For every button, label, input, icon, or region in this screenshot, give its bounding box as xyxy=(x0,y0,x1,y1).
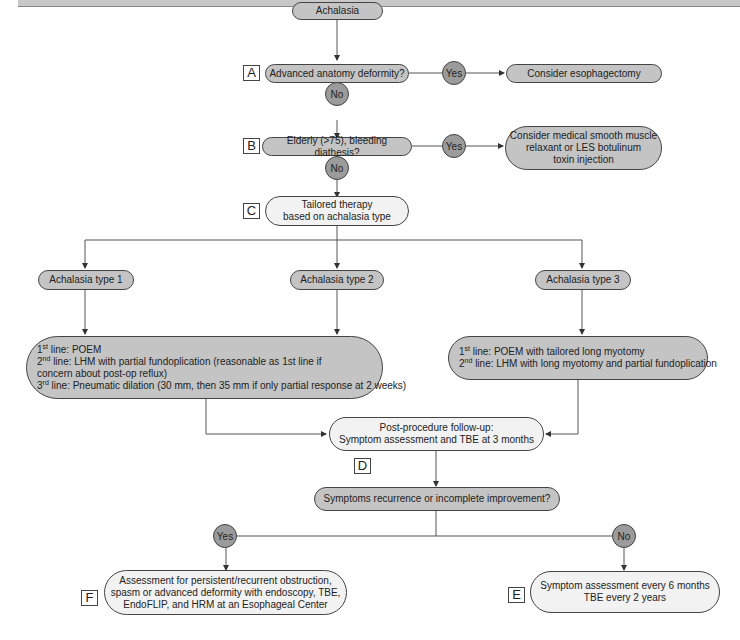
yes-circle-recurrence: Yes xyxy=(213,524,237,548)
achalasia-type-3: Achalasia type 3 xyxy=(535,270,631,290)
outcome-esophagectomy: Consider esophagectomy xyxy=(506,64,662,83)
achalasia-type-2: Achalasia type 2 xyxy=(290,270,384,290)
yes-label: Yes xyxy=(217,531,233,542)
type-1-2-therapy-node: 1st line: POEM 2nd line: LHM with partia… xyxy=(26,336,383,399)
type-3-label: Achalasia type 3 xyxy=(546,274,619,286)
therapy3-line-2: 2nd line: LHM with long myotomy and part… xyxy=(459,358,717,370)
therapy-line-2b: concern about post-op reflux) xyxy=(37,368,406,380)
no-label: No xyxy=(618,531,631,542)
yes-circle-a: Yes xyxy=(442,61,466,85)
followup-line-2: Symptom assessment and TBE at 3 months xyxy=(339,434,534,446)
step-label-c: C xyxy=(243,203,260,219)
tailored-line-2: based on achalasia type xyxy=(283,211,391,223)
decision-advanced-deformity: Advanced anatomy deformity? xyxy=(265,64,409,83)
no-label: No xyxy=(331,163,344,174)
yes-label: Yes xyxy=(446,68,462,79)
surveillance-node: Symptom assessment every 6 months TBE ev… xyxy=(530,571,720,613)
type-1-label: Achalasia type 1 xyxy=(49,274,122,286)
outcome-esophagectomy-label: Consider esophagectomy xyxy=(527,68,640,80)
assessment-line-2: spasm or advanced deformity with endosco… xyxy=(111,587,341,599)
step-label-b: B xyxy=(243,138,260,154)
no-circle-a: No xyxy=(325,82,349,106)
decision-symptom-recurrence: Symptoms recurrence or incomplete improv… xyxy=(314,487,560,511)
decision-elderly-bleeding-label: Elderly (>75), bleeding diathesis? xyxy=(263,135,411,159)
step-label-d: D xyxy=(354,458,371,474)
followup-line-1: Post-procedure follow-up: xyxy=(339,422,534,434)
assessment-line-1: Assessment for persistent/recurrent obst… xyxy=(111,575,341,587)
outcome-medical-relaxant-botulinum: Consider medical smooth muscle relaxant … xyxy=(505,126,662,170)
no-circle-b: No xyxy=(325,156,349,180)
no-circle-recurrence: No xyxy=(612,524,636,548)
surveillance-line-2: TBE every 2 years xyxy=(540,592,710,604)
type-2-label: Achalasia type 2 xyxy=(300,274,373,286)
step-label-a: A xyxy=(243,65,260,81)
decision-advanced-deformity-label: Advanced anatomy deformity? xyxy=(269,68,404,80)
therapy-line-1: 1st line: POEM xyxy=(37,344,406,356)
therapy-line-2: 2nd line: LHM with partial fundoplicatio… xyxy=(37,356,406,368)
decision-elderly-bleeding: Elderly (>75), bleeding diathesis? xyxy=(262,137,412,156)
outcome-line-3: toxin injection xyxy=(510,154,657,166)
start-node-achalasia: Achalasia xyxy=(292,2,383,20)
tailored-therapy-node: Tailored therapy based on achalasia type xyxy=(265,196,409,226)
type-3-therapy-node: 1st line: POEM with tailored long myotom… xyxy=(448,336,708,380)
achalasia-type-1: Achalasia type 1 xyxy=(38,270,134,290)
tailored-line-1: Tailored therapy xyxy=(283,199,391,211)
start-node-label: Achalasia xyxy=(316,5,359,17)
assessment-esophageal-center-node: Assessment for persistent/recurrent obst… xyxy=(104,570,347,615)
decision-recurrence-label: Symptoms recurrence or incomplete improv… xyxy=(324,493,551,505)
therapy3-line-1: 1st line: POEM with tailored long myotom… xyxy=(459,346,717,358)
assessment-line-3: EndoFLIP, and HRM at an Esophageal Cente… xyxy=(111,599,341,611)
step-label-e: E xyxy=(508,587,525,603)
no-label: No xyxy=(331,89,344,100)
outcome-line-2: relaxant or LES botulinum xyxy=(510,142,657,154)
outcome-line-1: Consider medical smooth muscle xyxy=(510,130,657,142)
therapy-line-3: 3rd line: Pneumatic dilation (30 mm, the… xyxy=(37,380,406,392)
yes-circle-b: Yes xyxy=(442,134,466,158)
post-procedure-followup-node: Post-procedure follow-up: Symptom assess… xyxy=(329,417,544,451)
surveillance-line-1: Symptom assessment every 6 months xyxy=(540,580,710,592)
step-label-f: F xyxy=(81,590,98,606)
yes-label: Yes xyxy=(446,141,462,152)
